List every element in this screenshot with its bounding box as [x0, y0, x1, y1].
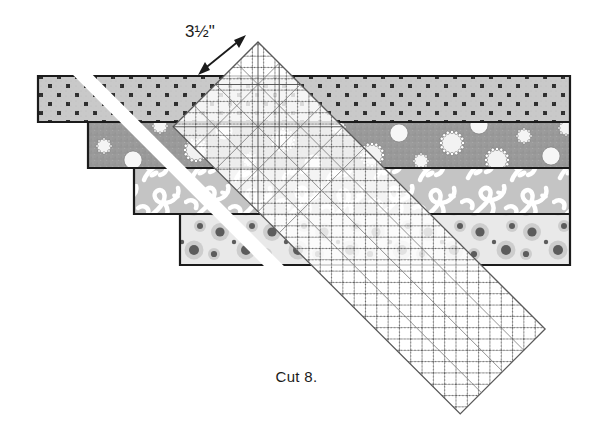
cut-8-illustration [0, 0, 593, 423]
measurement-label: 3½" [185, 22, 215, 42]
figure-caption: Cut 8. [0, 368, 593, 385]
